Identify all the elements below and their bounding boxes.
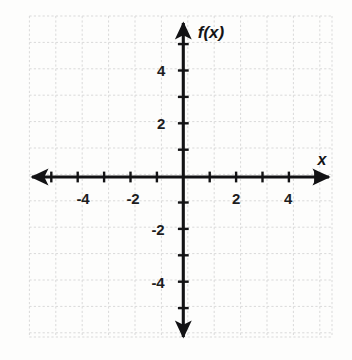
y-tick-label-pos-2: 2 xyxy=(157,115,165,132)
x-tick-label-neg-4: -4 xyxy=(77,190,90,207)
x-tick-label-neg-2: -2 xyxy=(127,190,140,207)
y-tick-label-neg-2: -2 xyxy=(152,221,165,238)
graph-canvas xyxy=(0,0,352,360)
x-tick-label-pos-2: 2 xyxy=(232,190,240,207)
coordinate-plane-figure: f(x) x -4 -2 2 4 4 2 -2 -4 xyxy=(0,0,352,360)
x-axis-label: x xyxy=(318,151,327,169)
y-axis xyxy=(178,23,189,337)
x-tick-label-pos-4: 4 xyxy=(284,190,292,207)
y-tick-label-pos-4: 4 xyxy=(157,62,165,79)
y-tick-label-neg-4: -4 xyxy=(152,274,165,291)
x-axis xyxy=(32,172,329,183)
y-axis-label: f(x) xyxy=(198,23,224,43)
